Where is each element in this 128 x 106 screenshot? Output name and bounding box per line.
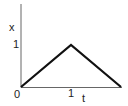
origin-label: 0 xyxy=(14,89,20,100)
y-tick-1: 1 xyxy=(13,39,19,50)
x-tick-1: 1 xyxy=(68,88,74,99)
x-axis-label: t xyxy=(82,93,85,104)
triangle-line xyxy=(21,45,121,87)
y-axis-label: x xyxy=(9,22,15,33)
